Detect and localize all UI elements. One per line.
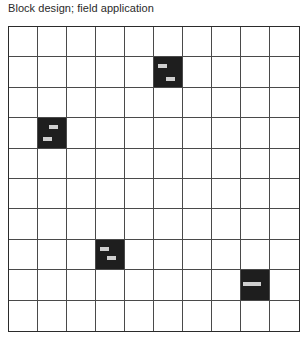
plot-cell	[212, 209, 241, 239]
plot-cell	[183, 179, 212, 209]
plot-cell	[67, 301, 96, 331]
plot-cell	[125, 301, 154, 331]
plot-cell	[67, 240, 96, 270]
plot-cell	[9, 88, 38, 118]
plot-cell	[9, 118, 38, 148]
plot-cell	[270, 27, 299, 57]
plot-cell	[270, 88, 299, 118]
plot-cell	[212, 149, 241, 179]
plot-cell	[67, 57, 96, 87]
plot-cell	[270, 57, 299, 87]
field-plot-grid	[8, 26, 300, 332]
plot-cell	[125, 118, 154, 148]
plot-cell	[241, 209, 270, 239]
plot-cell	[270, 179, 299, 209]
plot-cell	[96, 57, 125, 87]
plot-cell	[154, 301, 183, 331]
plot-cell	[9, 301, 38, 331]
plot-cell	[96, 118, 125, 148]
plot-cell	[270, 270, 299, 300]
application-marker	[166, 77, 175, 81]
plot-cell	[125, 240, 154, 270]
plot-cell	[125, 57, 154, 87]
plot-cell	[241, 118, 270, 148]
plot-cell	[241, 179, 270, 209]
plot-cell	[38, 270, 67, 300]
plot-cell	[183, 209, 212, 239]
plot-cell	[125, 179, 154, 209]
treated-plot	[241, 270, 270, 300]
plot-cell	[38, 88, 67, 118]
plot-cell	[9, 149, 38, 179]
plot-cell	[212, 118, 241, 148]
treated-plot	[38, 118, 67, 148]
plot-cell	[241, 240, 270, 270]
plot-cell	[125, 88, 154, 118]
plot-cell	[9, 209, 38, 239]
plot-cell	[183, 240, 212, 270]
application-marker	[158, 64, 167, 68]
plot-cell	[212, 270, 241, 300]
plot-cell	[9, 240, 38, 270]
plot-cell	[67, 270, 96, 300]
plot-cell	[212, 27, 241, 57]
plot-cell	[212, 240, 241, 270]
plot-cell	[212, 57, 241, 87]
plot-cell	[183, 270, 212, 300]
plot-cell	[9, 27, 38, 57]
plot-cell	[9, 270, 38, 300]
treated-plot	[96, 240, 125, 270]
plot-cell	[9, 179, 38, 209]
plot-cell	[270, 240, 299, 270]
treated-plot	[154, 57, 183, 87]
plot-cell	[38, 240, 67, 270]
plot-cell	[154, 27, 183, 57]
plot-cell	[38, 179, 67, 209]
plot-cell	[212, 301, 241, 331]
plot-cell	[38, 27, 67, 57]
plot-cell	[67, 149, 96, 179]
plot-cell	[67, 179, 96, 209]
plot-cell	[183, 27, 212, 57]
plot-cell	[125, 27, 154, 57]
plot-cell	[96, 149, 125, 179]
plot-cell	[96, 270, 125, 300]
application-marker	[252, 282, 261, 286]
plot-cell	[125, 209, 154, 239]
plot-cell	[183, 57, 212, 87]
application-marker	[107, 256, 116, 260]
plot-cell	[38, 209, 67, 239]
plot-cell	[270, 301, 299, 331]
plot-cell	[125, 149, 154, 179]
plot-cell	[154, 179, 183, 209]
plot-cell	[125, 270, 154, 300]
plot-cell	[154, 270, 183, 300]
plot-cell	[212, 179, 241, 209]
plot-cell	[270, 209, 299, 239]
plot-cell	[67, 209, 96, 239]
plot-cell	[183, 301, 212, 331]
plot-cell	[9, 57, 38, 87]
plot-cell	[154, 118, 183, 148]
plot-cell	[38, 149, 67, 179]
plot-cell	[96, 88, 125, 118]
plot-cell	[241, 149, 270, 179]
plot-cell	[96, 209, 125, 239]
plot-cell	[67, 27, 96, 57]
plot-cell	[183, 118, 212, 148]
plot-cell	[183, 88, 212, 118]
plot-cell	[270, 149, 299, 179]
plot-cell	[96, 27, 125, 57]
plot-cell	[154, 209, 183, 239]
application-marker	[100, 247, 109, 251]
plot-cell	[67, 118, 96, 148]
plot-cell	[241, 57, 270, 87]
plot-cell	[241, 27, 270, 57]
plot-cell	[67, 88, 96, 118]
plot-cell	[241, 88, 270, 118]
plot-cell	[270, 118, 299, 148]
plot-cell	[96, 179, 125, 209]
plot-cell	[96, 301, 125, 331]
plot-cell	[154, 88, 183, 118]
plot-cell	[38, 301, 67, 331]
